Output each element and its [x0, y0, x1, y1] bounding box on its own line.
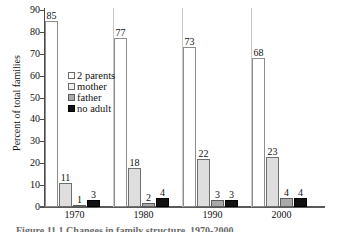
legend-item: father [68, 92, 115, 103]
bar: 68 [252, 58, 265, 207]
bar-value-label: 1 [77, 195, 82, 205]
figure: Percent of total families 01020304050607… [0, 0, 340, 232]
y-axis-tick-label: 60 [30, 71, 40, 81]
legend-item: no adult [68, 103, 115, 114]
y-axis-tick-mark [40, 207, 44, 208]
y-axis-tick-label: 20 [30, 158, 40, 168]
y-axis-tick-label: 80 [30, 27, 40, 37]
legend-label-mother: mother [77, 81, 107, 92]
bar-value-label: 77 [116, 28, 126, 38]
bar: 23 [266, 157, 279, 207]
legend-swatch-2-parents [68, 72, 75, 79]
x-axis-tick-label: 2000 [272, 209, 292, 220]
bar: 11 [59, 183, 72, 207]
y-axis-tick-mark [40, 185, 44, 186]
bar-value-label: 73 [185, 37, 195, 47]
y-axis-tick-mark [40, 32, 44, 33]
bar-value-label: 4 [160, 188, 165, 198]
bar-group: 732233 [183, 8, 238, 207]
bar-value-label: 85 [47, 11, 57, 21]
bar-value-label: 11 [61, 173, 71, 183]
y-axis-tick-label: 40 [30, 114, 40, 124]
bar: 2 [142, 203, 155, 207]
legend-item: mother [68, 81, 115, 92]
bar: 3 [87, 200, 100, 207]
y-axis-tick-mark [40, 119, 44, 120]
bar: 1 [73, 205, 86, 207]
bar-value-label: 4 [298, 188, 303, 198]
y-axis-tick-mark [40, 98, 44, 99]
bar: 18 [128, 168, 141, 207]
bar: 3 [211, 200, 224, 207]
bar-value-label: 2 [146, 193, 151, 203]
y-axis-tick-mark [40, 10, 44, 11]
bar-group: 771824 [114, 8, 169, 207]
y-axis-tick-label: 70 [30, 49, 40, 59]
figure-caption: Figure 11.1 Changes in family structure,… [16, 225, 326, 232]
x-axis-tick-label: 1970 [65, 209, 85, 220]
bar: 4 [156, 198, 169, 207]
bar-value-label: 18 [130, 158, 140, 168]
bar: 4 [280, 198, 293, 207]
legend-swatch-father [68, 94, 75, 101]
bar-value-label: 3 [229, 190, 234, 200]
legend: 2 parents mother father no adult [68, 70, 115, 114]
y-axis-tick-label: 50 [30, 93, 40, 103]
x-axis-tick-label: 1990 [203, 209, 223, 220]
bar: 3 [225, 200, 238, 207]
y-axis-tick-label: 90 [30, 5, 40, 15]
y-axis-title: Percent of total families [12, 28, 22, 178]
bar: 22 [197, 159, 210, 207]
legend-swatch-mother [68, 83, 75, 90]
bar-value-label: 4 [284, 188, 289, 198]
bar: 77 [114, 38, 127, 207]
bar-value-label: 3 [91, 190, 96, 200]
y-axis-tick-label: 10 [30, 180, 40, 190]
x-axis-tick-label: 1980 [134, 209, 154, 220]
y-axis-tick-mark [40, 54, 44, 55]
bar: 4 [294, 198, 307, 207]
bar: 85 [45, 21, 58, 207]
legend-label-no-adult: no adult [77, 103, 111, 114]
y-axis-tick-mark [40, 141, 44, 142]
y-axis-tick-mark [40, 76, 44, 77]
legend-label-father: father [77, 92, 101, 103]
bar-value-label: 22 [199, 149, 209, 159]
bar-value-label: 3 [215, 190, 220, 200]
y-axis-tick-label: 30 [30, 136, 40, 146]
bar-value-label: 68 [254, 48, 264, 58]
bar-value-label: 23 [268, 147, 278, 157]
bar-group: 682344 [252, 8, 307, 207]
bar: 73 [183, 47, 196, 207]
legend-swatch-no-adult [68, 105, 75, 112]
y-axis-tick-mark [40, 163, 44, 164]
legend-item: 2 parents [68, 70, 115, 81]
legend-label-2-parents: 2 parents [77, 70, 115, 81]
